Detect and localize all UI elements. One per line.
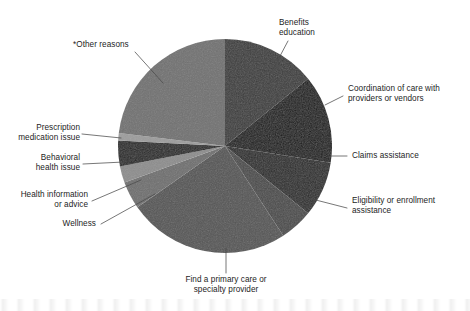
label-benefits-education: Benefits education: [279, 18, 363, 39]
pie-slice-other-reasons[interactable]: [119, 39, 225, 146]
label-find-provider: Find a primary care or specialty provide…: [164, 275, 288, 296]
leader-line-coordination-of-care: [325, 96, 343, 105]
pie-chart-figure: Benefits education Coordination of care …: [0, 0, 470, 311]
label-behavioral-health: Behavioral health issue: [18, 153, 80, 174]
label-health-information: Health information or advice: [6, 190, 88, 211]
leader-line-behavioral-health: [83, 162, 124, 164]
label-eligibility-or-enrollment: Eligibility or enrollment assistance: [352, 196, 468, 217]
label-claims-assistance: Claims assistance: [352, 151, 464, 161]
label-prescription-medication: Prescription medication issue: [8, 123, 80, 144]
label-wellness: Wellness: [18, 219, 96, 229]
leader-line-prescription-medication: [82, 134, 121, 138]
label-other-reasons: *Other reasons: [73, 40, 165, 50]
label-coordination-of-care: Coordination of care with providers or v…: [348, 84, 468, 105]
pie-slices: [118, 39, 332, 253]
page-bleed-artifact: [0, 299, 470, 311]
